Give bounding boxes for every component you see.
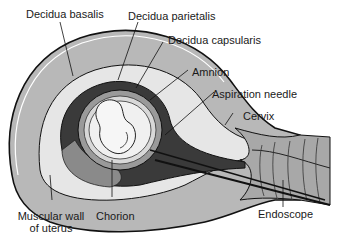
label-cervix: Cervix	[243, 110, 274, 122]
label-endoscope: Endoscope	[258, 208, 313, 220]
label-decidua-parietalis: Decidua parietalis	[128, 10, 215, 22]
label-aspiration-needle: Aspiration needle	[212, 88, 297, 100]
label-muscular-wall-line2: of uterus	[16, 222, 86, 234]
label-amnion: Amnion	[192, 66, 229, 78]
label-chorion: Chorion	[96, 210, 135, 222]
label-decidua-basalis: Decidua basalis	[26, 8, 104, 20]
label-muscular-wall-line1: Muscular wall	[16, 210, 86, 222]
label-decidua-capsularis: Decidua capsularis	[168, 34, 261, 46]
label-muscular-wall: Muscular wall of uterus	[16, 210, 86, 234]
